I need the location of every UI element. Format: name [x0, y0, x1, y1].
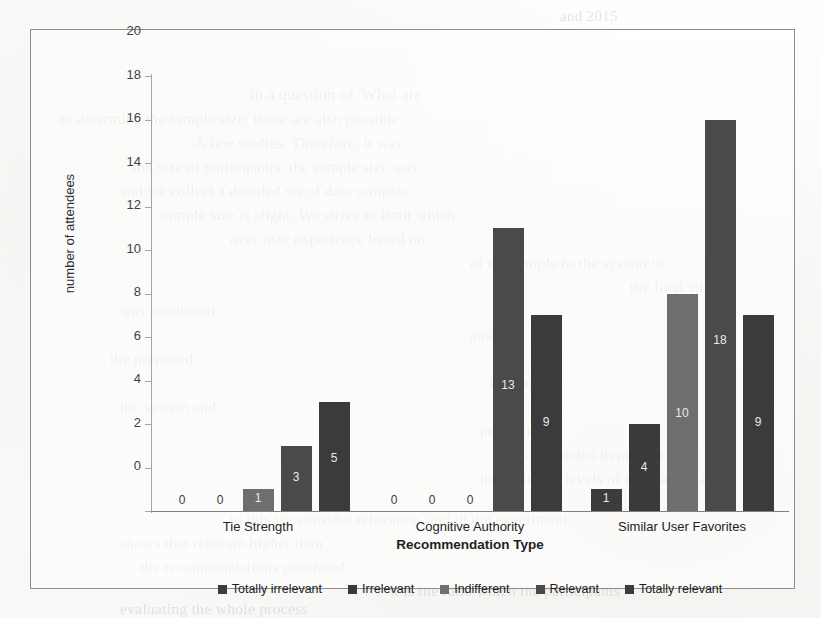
bleed-through-line: and 2015: [560, 8, 618, 25]
y-axis-tick-label: 20: [97, 23, 141, 38]
bar-slot[interactable]: 10: [667, 76, 698, 511]
y-axis-tick-labels: 02468101214161820: [89, 30, 141, 588]
y-axis-tick: [145, 424, 151, 425]
bar[interactable]: 10: [667, 294, 698, 512]
y-axis-tick-label: 0: [97, 458, 141, 473]
bar-value-label: 3: [281, 470, 312, 484]
legend-label: Relevant: [550, 582, 599, 596]
y-axis-tick: [145, 337, 151, 338]
y-axis-tick: [145, 76, 151, 77]
bar-slot[interactable]: 0: [417, 76, 448, 511]
y-axis-tick: [145, 468, 151, 469]
x-axis-title: Recommendation Type: [152, 537, 788, 552]
bar-group-inner: 000139: [364, 76, 576, 511]
y-axis-tick-label: 16: [97, 110, 141, 125]
bar-slot[interactable]: 13: [493, 76, 524, 511]
bar[interactable]: 9: [743, 315, 774, 511]
y-axis-tick-label: 4: [97, 371, 141, 386]
y-axis-tick-label: 6: [97, 327, 141, 342]
y-axis-tick: [145, 250, 151, 251]
y-axis-tick: [145, 294, 151, 295]
bar-value-label: 0: [417, 493, 448, 507]
bar-slot[interactable]: 0: [379, 76, 410, 511]
bar-slot[interactable]: 5: [319, 76, 350, 511]
bar-value-label: 18: [705, 333, 736, 347]
y-axis-tick-label: 8: [97, 284, 141, 299]
bar[interactable]: 1: [243, 489, 274, 511]
bar[interactable]: 5: [319, 402, 350, 511]
bar-value-label: 0: [379, 493, 410, 507]
plot-area: 001350001391410189: [152, 76, 788, 511]
bar-value-label: 0: [455, 493, 486, 507]
bar-value-label: 1: [591, 491, 622, 505]
legend-item[interactable]: Indifferent: [440, 582, 509, 596]
y-axis-tick: [145, 207, 151, 208]
x-axis-category-label: Cognitive Authority: [364, 519, 576, 534]
y-axis-tick: [145, 381, 151, 382]
bar-slot[interactable]: 0: [167, 76, 198, 511]
legend-label: Irrelevant: [362, 582, 414, 596]
bar-value-label: 0: [205, 493, 236, 507]
x-axis-category-label: Tie Strength: [152, 519, 364, 534]
y-axis-tick-label: 14: [97, 153, 141, 168]
bar-group: 1410189: [576, 76, 788, 511]
bar[interactable]: 13: [493, 228, 524, 511]
bar-value-label: 9: [743, 415, 774, 429]
legend-item[interactable]: Totally relevant: [625, 582, 722, 596]
y-axis-tick: [145, 120, 151, 121]
legend-item[interactable]: Totally irrelevant: [218, 582, 322, 596]
bar-chart: 02468101214161820 number of attendees 00…: [31, 30, 794, 588]
bar[interactable]: 1: [591, 489, 622, 511]
legend-label: Totally relevant: [639, 582, 722, 596]
bar-value-label: 0: [167, 493, 198, 507]
bar[interactable]: 9: [531, 315, 562, 511]
bar-slot[interactable]: 1: [591, 76, 622, 511]
bar-value-label: 13: [493, 378, 524, 392]
bar-group-inner: 00135: [152, 76, 364, 511]
legend-swatch-icon: [625, 585, 634, 594]
bar-slot[interactable]: 1: [243, 76, 274, 511]
legend-label: Totally irrelevant: [232, 582, 322, 596]
bar-group: 00135: [152, 76, 364, 511]
bar-value-label: 4: [629, 460, 660, 474]
legend-swatch-icon: [536, 585, 545, 594]
x-axis-line: [151, 511, 789, 512]
bar[interactable]: 3: [281, 446, 312, 511]
y-axis-tick-label: 12: [97, 197, 141, 212]
y-axis-title: number of attendees: [62, 139, 77, 329]
bar-slot[interactable]: 9: [531, 76, 562, 511]
bar-slot[interactable]: 3: [281, 76, 312, 511]
bar-slot[interactable]: 0: [455, 76, 486, 511]
bar-slot[interactable]: 4: [629, 76, 660, 511]
bar[interactable]: 18: [705, 120, 736, 512]
figure-frame: 02468101214161820 number of attendees 00…: [30, 29, 795, 589]
legend-item[interactable]: Irrelevant: [348, 582, 414, 596]
legend-swatch-icon: [348, 585, 357, 594]
bar-slot[interactable]: 9: [743, 76, 774, 511]
legend-swatch-icon: [440, 585, 449, 594]
bar-value-label: 10: [667, 406, 698, 420]
y-axis-tick: [145, 163, 151, 164]
y-axis-tick-label: 18: [97, 66, 141, 81]
bar-value-label: 9: [531, 415, 562, 429]
bar-group: 000139: [364, 76, 576, 511]
y-axis-tick-label: 2: [97, 414, 141, 429]
x-axis-category-label: Similar User Favorites: [576, 519, 788, 534]
bar-slot[interactable]: 18: [705, 76, 736, 511]
legend-label: Indifferent: [454, 582, 509, 596]
bar[interactable]: 4: [629, 424, 660, 511]
bar-slot[interactable]: 0: [205, 76, 236, 511]
legend-item[interactable]: Relevant: [536, 582, 599, 596]
y-axis-tick-label: 10: [97, 240, 141, 255]
bar-value-label: 5: [319, 451, 350, 465]
legend-swatch-icon: [218, 585, 227, 594]
bar-group-inner: 1410189: [576, 76, 788, 511]
legend: Totally irrelevantIrrelevantIndifferentR…: [152, 582, 788, 596]
bleed-through-line: evaluating the whole process: [120, 600, 308, 618]
bar-value-label: 1: [243, 491, 274, 505]
